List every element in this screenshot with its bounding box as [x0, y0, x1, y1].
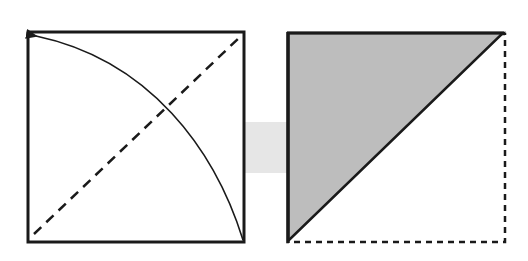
origami-diagram [0, 0, 528, 261]
step-connector [245, 122, 289, 173]
step-after [287, 32, 505, 243]
folded-triangle [288, 33, 503, 241]
step-before [28, 32, 244, 242]
